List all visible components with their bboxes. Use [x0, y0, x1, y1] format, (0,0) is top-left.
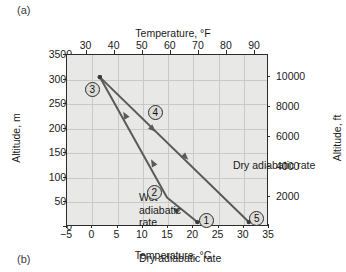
tick-bottom-10: 10	[136, 228, 148, 240]
top-axis-title: Temperature, °F	[0, 27, 346, 39]
series-arrowhead-0-1	[151, 159, 157, 167]
figure-container: (a) (b) Temperature, °F Temperature, °C …	[0, 0, 346, 272]
annotation-dry-adiabatic-rate-lower: Dry adiabatic rate	[139, 252, 221, 265]
left-axis-title: Altitude, m	[10, 98, 22, 178]
tick-bottom-25: 25	[212, 228, 224, 240]
tick-bottom-20: 20	[186, 228, 198, 240]
tick-bottom-35: 35	[262, 228, 274, 240]
panel-label-a: (a)	[17, 4, 30, 16]
tick-right-2000: 2000	[276, 190, 299, 202]
annotation-wet-line-1: adiabatic	[139, 204, 181, 217]
tick-bottom-5: 5	[114, 228, 120, 240]
series-arrowhead-0-0	[123, 112, 129, 120]
data-marker-4: 4	[148, 105, 163, 120]
data-marker-2: 2	[147, 185, 162, 200]
tick-bottom-0: 0	[88, 228, 94, 240]
data-marker-1: 1	[199, 213, 214, 228]
right-axis-title: Altitude, ft	[331, 98, 343, 178]
tick-bottom-30: 30	[237, 228, 249, 240]
annotation-dry-adiabatic-rate-upper: Dry adiabatic rate	[233, 159, 315, 172]
annotation-wet-line-2: rate	[139, 216, 181, 229]
plot-area: Wetadiabaticrate Dry adiabatic rate Dry …	[66, 54, 268, 226]
series-endpoint	[98, 75, 102, 79]
tick-right-10000: 10000	[276, 70, 305, 82]
tick-right-6000: 6000	[276, 130, 299, 142]
tick-bottom-15: 15	[161, 228, 173, 240]
tick-right-8000: 8000	[276, 100, 299, 112]
